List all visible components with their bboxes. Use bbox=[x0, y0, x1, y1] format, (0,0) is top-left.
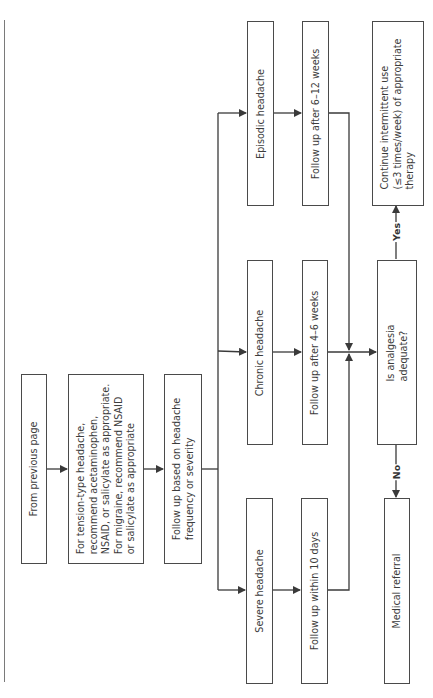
connector-lines bbox=[0, 0, 433, 698]
node-label: From previous page bbox=[28, 422, 41, 517]
node-label: For tension-type headache, recommend ace… bbox=[75, 384, 138, 555]
node-treatment-recommendation: For tension-type headache, recommend ace… bbox=[68, 374, 144, 564]
node-continue-intermittent-use: Continue intermittent use (≤3 times/week… bbox=[372, 21, 424, 206]
node-label: Chronic headache bbox=[254, 309, 267, 396]
node-episodic-headache: Episodic headache bbox=[247, 21, 274, 206]
node-label: Follow up within 10 days bbox=[308, 532, 321, 650]
node-follow-up-10-days: Follow up within 10 days bbox=[301, 498, 328, 684]
node-label: Follow up based on headache frequency or… bbox=[171, 398, 196, 540]
node-label: Continue intermittent use (≤3 times/week… bbox=[379, 38, 417, 189]
node-severe-headache: Severe headache bbox=[246, 498, 273, 684]
node-chronic-headache: Chronic headache bbox=[247, 260, 273, 445]
node-label: Severe headache bbox=[253, 549, 266, 632]
node-from-previous-page: From previous page bbox=[21, 374, 47, 564]
node-label: Is analgesia adequate? bbox=[385, 324, 410, 381]
node-label: Follow up after 4–6 weeks bbox=[309, 290, 322, 414]
node-follow-up-4-6-weeks: Follow up after 4–6 weeks bbox=[302, 260, 328, 445]
node-label: Episodic headache bbox=[254, 69, 267, 159]
node-follow-up-basis: Follow up based on headache frequency or… bbox=[164, 374, 202, 564]
node-label: Follow up after 6–12 weeks bbox=[309, 48, 322, 178]
node-label: Medical referral bbox=[391, 554, 404, 629]
node-decision-analgesia-adequate: Is analgesia adequate? bbox=[377, 260, 417, 445]
node-medical-referral: Medical referral bbox=[384, 498, 410, 684]
edge-label-no: No bbox=[391, 464, 402, 480]
node-follow-up-6-12-weeks: Follow up after 6–12 weeks bbox=[302, 21, 329, 206]
edge-label-yes: Yes bbox=[391, 222, 402, 242]
